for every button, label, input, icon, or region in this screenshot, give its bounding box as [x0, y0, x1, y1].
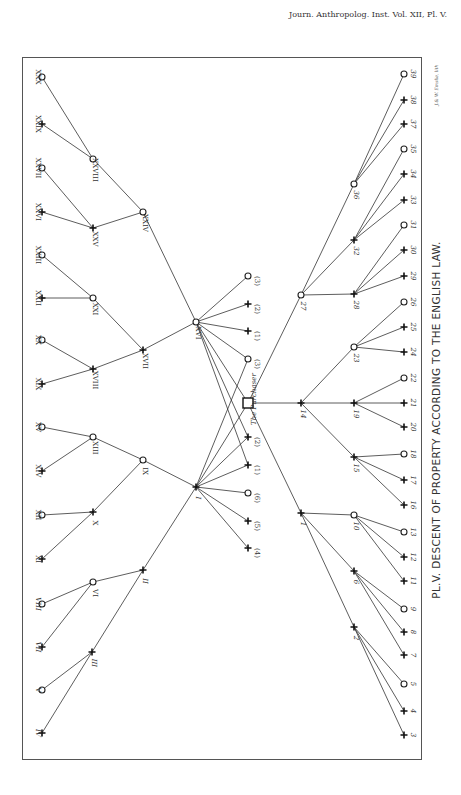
- node-label: II: [141, 577, 149, 584]
- node-label: 28: [352, 300, 360, 310]
- edge-n15-n16: [354, 457, 404, 505]
- node-XVIII: XVIII: [90, 366, 100, 390]
- node-n30: 30: [401, 246, 418, 255]
- male-cross-icon: [401, 708, 408, 715]
- node-label: (4): [253, 548, 261, 558]
- node-n39: 39: [401, 70, 417, 79]
- edge-n36-n39: [354, 74, 404, 184]
- edge-II-III: [92, 570, 143, 652]
- node-label: XVIII: [91, 371, 99, 390]
- male-cross-icon: [245, 518, 252, 525]
- node-label: 14: [299, 410, 307, 419]
- edge-XVI-c1: [196, 322, 248, 465]
- node-n25: 25: [401, 322, 418, 332]
- node-label: 32: [352, 247, 360, 256]
- node-n5: 5: [401, 681, 417, 687]
- node-label: 37: [409, 120, 417, 129]
- node-n35: 35: [401, 145, 417, 154]
- female-circle-icon: [401, 451, 407, 457]
- female-circle-icon: [401, 146, 407, 152]
- node-label: 2: [352, 635, 360, 641]
- edge-n2-n5: [354, 627, 404, 684]
- node-XXX: XXX: [34, 70, 45, 85]
- edge-XVI-c2: [196, 322, 248, 437]
- node-label: XXVII: [34, 158, 42, 179]
- node-n8: 8: [401, 629, 418, 636]
- node-d1: (1): [245, 328, 262, 342]
- female-circle-icon: [193, 319, 199, 325]
- node-label: XXVIII: [91, 158, 99, 182]
- node-n13: 13: [401, 528, 417, 537]
- edge-XVIII-XIX: [42, 369, 93, 384]
- node-label: 12: [409, 553, 417, 562]
- edge-XIII-XV: [42, 427, 93, 437]
- node-label: 15: [352, 464, 360, 473]
- node-n21: 21: [401, 398, 418, 408]
- node-XIV: XIV: [34, 465, 46, 479]
- node-n12: 12: [401, 553, 418, 562]
- edge-XXVIII-XXX: [42, 77, 93, 159]
- edge-XXI-XXIII: [42, 255, 93, 298]
- edge-n28-n30: [354, 250, 404, 294]
- node-label: 23: [352, 353, 360, 363]
- node-label: 39: [409, 70, 417, 79]
- edge-XVI-d1: [196, 322, 248, 331]
- male-cross-icon: [401, 171, 408, 178]
- node-XXVIII: XXVIII: [90, 156, 99, 182]
- edge-I_left-c4: [196, 487, 248, 548]
- edge-XVII-XVIII: [93, 350, 143, 369]
- node-label: 34: [409, 170, 417, 179]
- male-cross-icon: [401, 349, 408, 356]
- node-label: XII: [34, 510, 42, 521]
- node-d3: (3): [245, 273, 261, 286]
- node-n33: 33: [401, 196, 418, 205]
- edge-III-V: [42, 652, 92, 690]
- edge-n1-n10: [301, 513, 354, 515]
- node-label: 30: [409, 246, 417, 255]
- node-XXIII: XXIII: [34, 246, 45, 264]
- edge-n10-n11: [354, 515, 404, 581]
- node-label: 3: [409, 733, 417, 738]
- edge-n28-n29: [354, 276, 404, 294]
- node-label: XXIX: [34, 115, 42, 133]
- edge-XXVIII-XXIX: [42, 124, 93, 159]
- node-label: 26: [409, 297, 417, 307]
- node-label: 29: [409, 271, 417, 281]
- node-label: 35: [409, 145, 417, 154]
- edge-XVI-XVII: [143, 322, 196, 350]
- edge-n2-n3: [354, 627, 404, 735]
- node-label: 27: [299, 301, 307, 311]
- node-label: XX: [34, 335, 42, 345]
- node-label: 6: [352, 580, 360, 585]
- node-XV: XV: [34, 422, 45, 433]
- edge-n19-n22: [354, 378, 404, 403]
- edge-n14-n23: [301, 347, 354, 403]
- purchaser-label: The Purchaser: [250, 373, 258, 425]
- edge-n10-n12: [354, 515, 404, 557]
- edge-n32-n34: [354, 174, 404, 240]
- node-n32: 32: [351, 237, 361, 256]
- node-label: VII: [34, 642, 42, 653]
- male-cross-icon: [401, 97, 408, 104]
- female-circle-icon: [401, 606, 407, 612]
- edge-n27-n32: [301, 240, 354, 295]
- edge-XXIV-XXV: [93, 212, 143, 228]
- node-n11: 11: [401, 577, 418, 586]
- node-label: (3): [253, 359, 261, 369]
- male-cross-icon: [401, 273, 408, 280]
- node-XXI: XXI: [90, 295, 99, 316]
- node-c5: (5): [245, 518, 262, 532]
- edge-n15-n18: [354, 454, 404, 457]
- node-n37: 37: [401, 120, 418, 129]
- node-XI: XI: [34, 555, 46, 563]
- node-label: VIII: [34, 597, 42, 611]
- edge-I_left-IX: [143, 460, 196, 487]
- male-cross-icon: [401, 400, 408, 407]
- node-XX: XX: [34, 335, 45, 345]
- node-label: XV: [34, 422, 42, 433]
- node-n22: 22: [401, 373, 417, 383]
- male-cross-icon: [351, 400, 358, 407]
- node-label: XXX: [34, 70, 42, 85]
- node-label: 25: [409, 322, 417, 332]
- node-label: XVII: [141, 353, 149, 369]
